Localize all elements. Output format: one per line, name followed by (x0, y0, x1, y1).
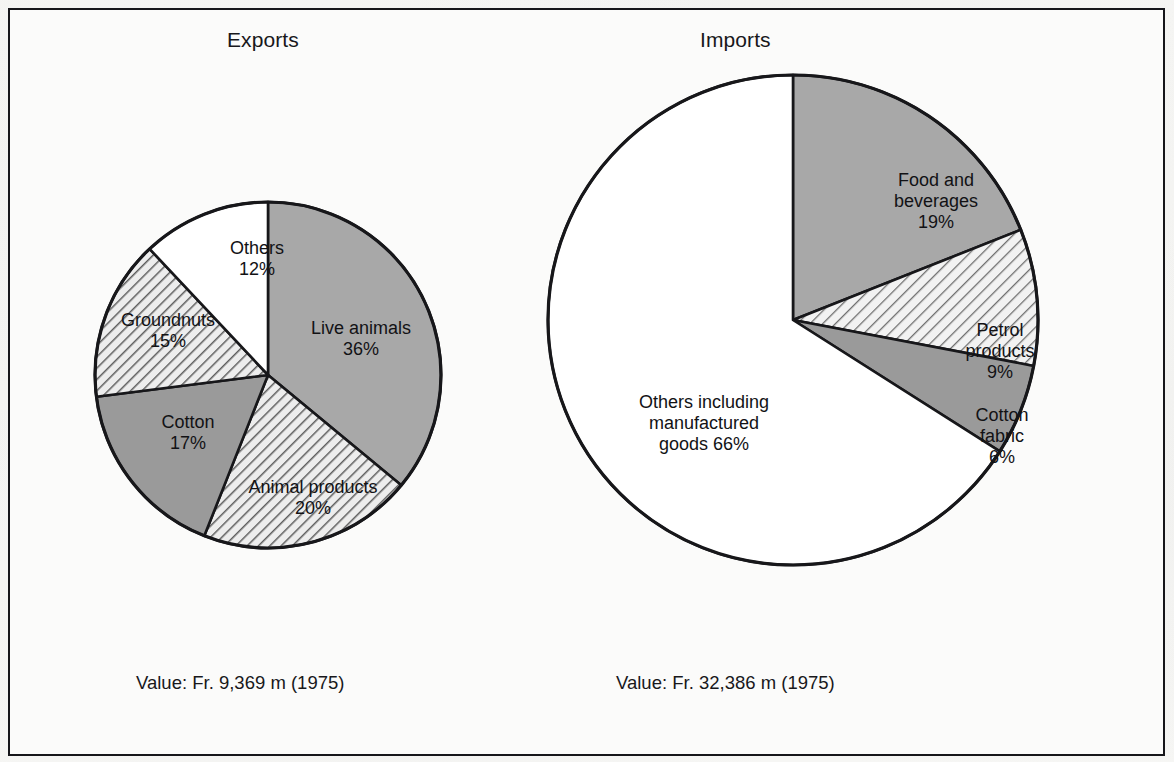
imports-pie-chart (0, 0, 1174, 762)
figure-panel: Exports Live animals 36% Animal products… (0, 0, 1174, 762)
imports-slice-group (548, 75, 1038, 565)
imports-chart-title: Imports (700, 28, 771, 52)
imports-value-caption: Value: Fr. 32,386 m (1975) (616, 672, 835, 694)
